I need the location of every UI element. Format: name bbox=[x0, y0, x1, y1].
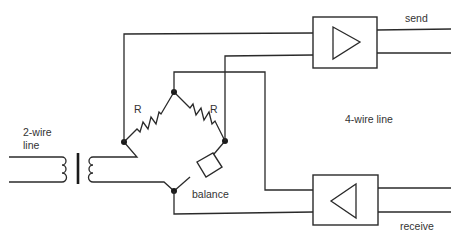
send-wiring bbox=[124, 33, 313, 142]
resistor-right-icon bbox=[174, 92, 225, 141]
send-label: send bbox=[405, 12, 428, 24]
balance-label: balance bbox=[192, 188, 229, 200]
four-wire-label: 4-wire line bbox=[345, 113, 393, 125]
receive-amplifier bbox=[313, 175, 451, 225]
resistor-left-icon bbox=[124, 92, 174, 142]
resistor-right-label: R bbox=[210, 103, 218, 115]
balance-impedance-icon bbox=[174, 141, 225, 191]
hybrid-circuit-diagram: 2-wire line R R balance 4-wire line send… bbox=[0, 0, 461, 237]
receive-label: receive bbox=[400, 220, 434, 232]
transformer-icon bbox=[62, 142, 174, 191]
send-amplifier bbox=[313, 17, 451, 68]
resistor-left-label: R bbox=[134, 103, 142, 115]
two-wire-leads bbox=[9, 157, 62, 182]
two-wire-label-line1: 2-wire bbox=[23, 126, 52, 138]
two-wire-label-line2: line bbox=[23, 139, 40, 151]
